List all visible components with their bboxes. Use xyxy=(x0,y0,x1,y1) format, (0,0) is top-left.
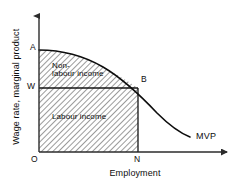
point-label-a: A xyxy=(30,43,36,52)
non-labour-income-label: Non- labour income xyxy=(52,62,104,79)
point-label-b: B xyxy=(141,75,147,84)
point-label-n: N xyxy=(134,155,140,164)
x-axis-title: Employment xyxy=(92,169,178,178)
y-axis-title: Wage rate, marginal product xyxy=(12,23,21,151)
mvp-labour-market-diagram: Wage rate, marginal product Employment A… xyxy=(0,0,251,186)
origin-label: O xyxy=(31,155,38,164)
non-labour-income-label-line2: labour income xyxy=(52,70,104,78)
mvp-curve-label: MVP xyxy=(196,132,216,141)
labour-income-label: Labour income xyxy=(52,113,106,121)
point-label-w: W xyxy=(27,82,35,91)
